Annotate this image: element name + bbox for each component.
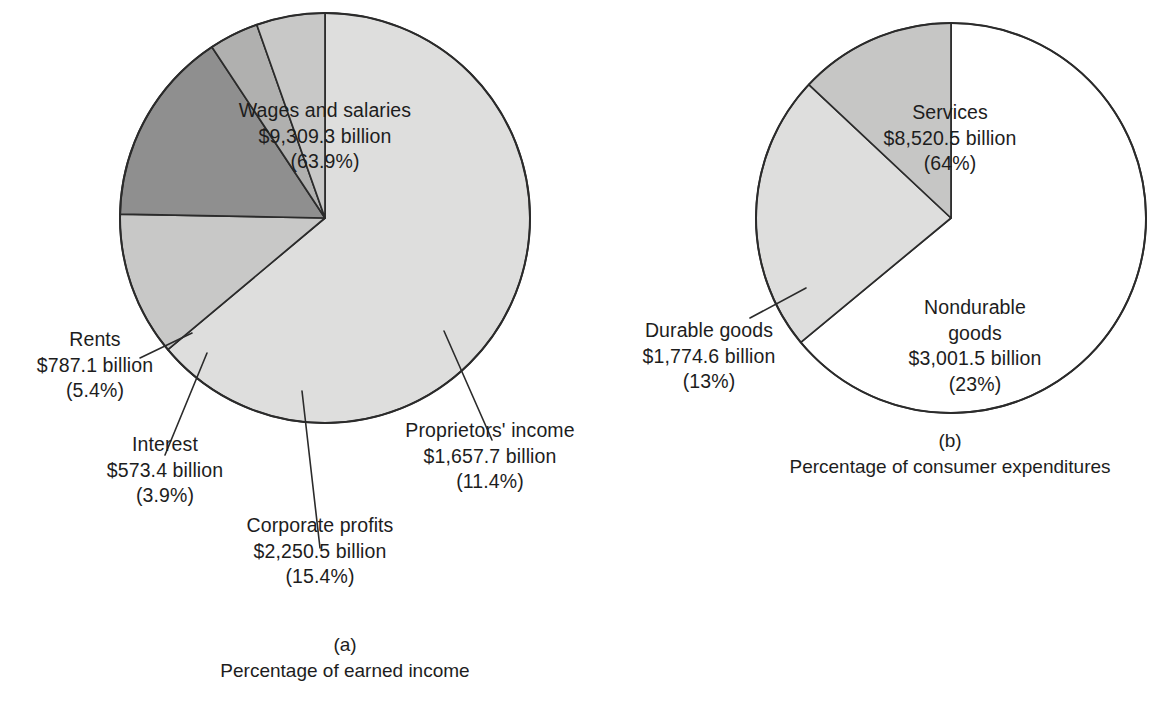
- label-durable-goods-name: Durable goods: [594, 318, 824, 344]
- label-interest-amount: $573.4 billion: [55, 458, 275, 484]
- caption-b: (b) Percentage of consumer expenditures: [760, 428, 1140, 479]
- label-corporate-profits-amount: $2,250.5 billion: [200, 539, 440, 565]
- label-durable-goods-amount: $1,774.6 billion: [594, 344, 824, 370]
- label-rents-amount: $787.1 billion: [0, 353, 195, 379]
- caption-b-tag: (b): [760, 428, 1140, 454]
- label-proprietors-income: Proprietors' income $1,657.7 billion (11…: [370, 418, 610, 495]
- label-nondurable-goods: Nondurable goods $3,001.5 billion (23%): [860, 295, 1090, 398]
- label-durable-goods: Durable goods $1,774.6 billion (13%): [594, 318, 824, 395]
- pie-chart-figure: Wages and salaries $9,309.3 billion (63.…: [0, 0, 1161, 706]
- label-durable-goods-percent: (13%): [594, 369, 824, 395]
- label-corporate-profits-percent: (15.4%): [200, 564, 440, 590]
- label-interest: Interest $573.4 billion (3.9%): [55, 432, 275, 509]
- label-proprietors-income-percent: (11.4%): [370, 469, 610, 495]
- label-nondurable-goods-percent: (23%): [860, 372, 1090, 398]
- label-wages-and-salaries: Wages and salaries $9,309.3 billion (63.…: [160, 98, 490, 175]
- label-corporate-profits: Corporate profits $2,250.5 billion (15.4…: [200, 513, 440, 590]
- label-services: Services $8,520.5 billion (64%): [825, 100, 1075, 177]
- label-services-amount: $8,520.5 billion: [825, 126, 1075, 152]
- label-wages-and-salaries-percent: (63.9%): [160, 149, 490, 175]
- label-services-name: Services: [825, 100, 1075, 126]
- label-nondurable-goods-name-1: Nondurable: [860, 295, 1090, 321]
- label-wages-and-salaries-name: Wages and salaries: [160, 98, 490, 124]
- caption-b-text: Percentage of consumer expenditures: [760, 454, 1140, 480]
- label-interest-percent: (3.9%): [55, 483, 275, 509]
- label-interest-name: Interest: [55, 432, 275, 458]
- label-services-percent: (64%): [825, 151, 1075, 177]
- caption-a-tag: (a): [185, 632, 505, 658]
- label-rents: Rents $787.1 billion (5.4%): [0, 327, 195, 404]
- label-proprietors-income-name: Proprietors' income: [370, 418, 610, 444]
- caption-a-text: Percentage of earned income: [185, 658, 505, 684]
- label-rents-percent: (5.4%): [0, 378, 195, 404]
- caption-a: (a) Percentage of earned income: [185, 632, 505, 683]
- label-wages-and-salaries-amount: $9,309.3 billion: [160, 124, 490, 150]
- label-rents-name: Rents: [0, 327, 195, 353]
- label-nondurable-goods-name-2: goods: [860, 321, 1090, 347]
- label-corporate-profits-name: Corporate profits: [200, 513, 440, 539]
- label-nondurable-goods-amount: $3,001.5 billion: [860, 346, 1090, 372]
- label-proprietors-income-amount: $1,657.7 billion: [370, 444, 610, 470]
